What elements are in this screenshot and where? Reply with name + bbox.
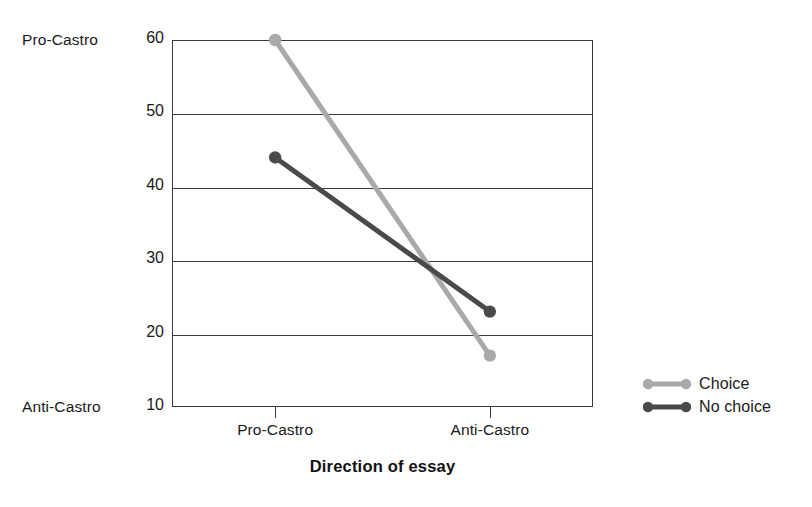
y-axis-tick-label: 10 [118, 396, 164, 414]
x-axis-tick-label: Pro-Castro [237, 421, 313, 439]
y-axis-bottom-category-label: Anti-Castro [22, 398, 101, 416]
legend-line-marker-icon [643, 377, 691, 391]
y-axis-tick-label: 20 [118, 323, 164, 341]
gridline [173, 261, 592, 262]
y-axis-tick-label: 30 [118, 249, 164, 267]
legend-item[interactable]: Choice [643, 372, 803, 395]
x-axis-tick-label: Anti-Castro [451, 421, 530, 439]
plot-area [172, 40, 593, 407]
y-axis-tick-labels: 605040302010 [118, 0, 164, 507]
y-axis-tick-label: 60 [118, 29, 164, 47]
y-axis-tick-label: 50 [118, 102, 164, 120]
x-axis-tick-mark [275, 407, 276, 418]
line-chart-figure: Pro-Castro Anti-Castro Estimate of essay… [0, 0, 812, 507]
legend-line-marker-icon [643, 400, 691, 414]
legend-label: No choice [699, 398, 771, 416]
legend-item[interactable]: No choice [643, 395, 803, 418]
gridline [173, 335, 592, 336]
gridline [173, 114, 592, 115]
x-axis-title: Direction of essay [172, 457, 593, 476]
x-axis-tick-mark [490, 407, 491, 418]
y-axis-tick-label: 40 [118, 176, 164, 194]
gridline [173, 188, 592, 189]
legend-label: Choice [699, 375, 749, 393]
y-axis-top-category-label: Pro-Castro [22, 31, 98, 49]
chart-legend: ChoiceNo choice [643, 372, 803, 418]
